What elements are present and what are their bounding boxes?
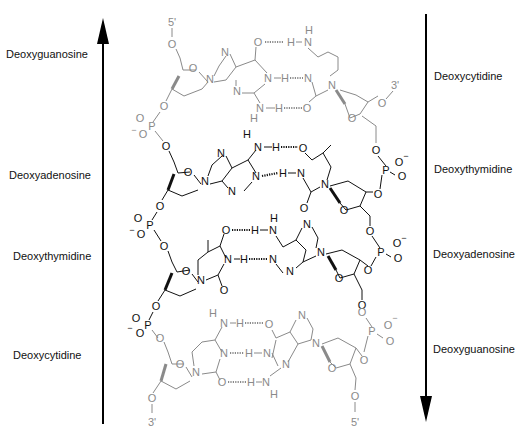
svg-text:O: O bbox=[148, 392, 157, 404]
dna-diagram: 5' O O O N N O N N N H H N H H bbox=[0, 0, 529, 436]
svg-text:N: N bbox=[328, 79, 336, 91]
svg-text:O: O bbox=[162, 140, 171, 152]
svg-text:N: N bbox=[282, 358, 290, 370]
phosphate-right-2: P O − O bbox=[371, 233, 407, 266]
svg-text:P: P bbox=[144, 319, 151, 331]
svg-text:H: H bbox=[305, 24, 313, 36]
svg-text:N: N bbox=[197, 274, 205, 286]
svg-text:O: O bbox=[182, 265, 191, 277]
svg-text:H: H bbox=[250, 112, 258, 124]
svg-text:P: P bbox=[146, 219, 153, 231]
svg-text:P: P bbox=[382, 164, 389, 176]
svg-text:O: O bbox=[176, 358, 185, 370]
svg-text:O: O bbox=[360, 354, 369, 366]
svg-text:N: N bbox=[221, 46, 229, 58]
svg-text:O: O bbox=[398, 170, 407, 182]
svg-text:N: N bbox=[304, 36, 312, 48]
svg-text:O: O bbox=[378, 97, 387, 109]
svg-text:O: O bbox=[340, 204, 349, 216]
svg-text:H: H bbox=[240, 253, 248, 265]
svg-text:O: O bbox=[160, 100, 169, 112]
svg-text:O: O bbox=[254, 36, 263, 48]
svg-text:N: N bbox=[297, 167, 305, 179]
svg-text:N: N bbox=[220, 317, 228, 329]
svg-text:O: O bbox=[184, 166, 193, 178]
svg-text:O: O bbox=[168, 38, 177, 50]
svg-text:O: O bbox=[299, 142, 308, 154]
svg-text:−: − bbox=[129, 225, 134, 235]
svg-text:O: O bbox=[335, 272, 344, 284]
svg-text:N: N bbox=[233, 85, 241, 97]
svg-text:O: O bbox=[189, 62, 198, 74]
svg-text:N: N bbox=[264, 72, 272, 84]
svg-text:O: O bbox=[132, 312, 141, 324]
svg-text:O: O bbox=[386, 335, 395, 347]
base-pair-t-a: O O O N O N O H N H H N N N bbox=[152, 212, 373, 312]
svg-text:N: N bbox=[298, 309, 306, 321]
svg-text:N: N bbox=[269, 224, 277, 236]
svg-text:H: H bbox=[279, 167, 287, 179]
svg-text:O: O bbox=[136, 327, 145, 339]
svg-text:O: O bbox=[394, 252, 403, 264]
svg-text:H: H bbox=[281, 72, 289, 84]
svg-text:−: − bbox=[127, 323, 132, 333]
svg-text:N: N bbox=[262, 376, 270, 388]
svg-text:H: H bbox=[245, 347, 253, 359]
phosphate-left-3: P O O − bbox=[127, 312, 153, 339]
svg-text:N: N bbox=[263, 347, 271, 359]
svg-text:O: O bbox=[152, 300, 161, 312]
svg-text:O: O bbox=[136, 112, 145, 124]
svg-text:O: O bbox=[384, 319, 393, 331]
phosphate-left-1: P O O − bbox=[131, 112, 163, 141]
svg-text:H: H bbox=[209, 307, 217, 319]
svg-text:H: H bbox=[247, 376, 255, 388]
phosphate-right-3: O P O − O bbox=[358, 306, 398, 352]
svg-text:−: − bbox=[401, 233, 406, 243]
svg-text:H: H bbox=[287, 36, 295, 48]
svg-text:H: H bbox=[270, 388, 278, 400]
svg-text:N: N bbox=[312, 337, 320, 349]
svg-text:O: O bbox=[218, 376, 227, 388]
svg-text:N: N bbox=[269, 253, 277, 265]
svg-text:P: P bbox=[148, 120, 155, 132]
svg-text:H: H bbox=[236, 317, 244, 329]
svg-text:N: N bbox=[317, 246, 325, 258]
left-strand-arrow bbox=[97, 18, 109, 424]
svg-text:N: N bbox=[286, 265, 294, 277]
svg-text:N: N bbox=[254, 141, 262, 153]
svg-text:O: O bbox=[303, 102, 312, 114]
svg-text:−: − bbox=[403, 151, 408, 161]
svg-text:O: O bbox=[372, 144, 381, 156]
svg-text:O: O bbox=[156, 200, 165, 212]
svg-text:O: O bbox=[358, 306, 367, 318]
svg-text:O: O bbox=[137, 228, 146, 240]
svg-text:O: O bbox=[348, 112, 357, 124]
svg-text:P: P bbox=[368, 325, 375, 337]
svg-text:−: − bbox=[392, 313, 397, 323]
svg-text:O: O bbox=[134, 212, 143, 224]
svg-text:N: N bbox=[224, 253, 232, 265]
svg-text:O: O bbox=[374, 188, 383, 200]
svg-text:O: O bbox=[366, 225, 375, 237]
svg-text:N: N bbox=[321, 178, 329, 190]
phosphate-left-2: P O O − bbox=[129, 212, 161, 241]
three-prime-top-right: 3' bbox=[391, 79, 399, 91]
svg-text:N: N bbox=[192, 366, 200, 378]
svg-text:O: O bbox=[265, 318, 274, 330]
three-prime-bottom-left: 3' bbox=[148, 416, 156, 428]
svg-text:N: N bbox=[304, 72, 312, 84]
svg-text:N: N bbox=[252, 170, 260, 182]
svg-text:N: N bbox=[228, 185, 236, 197]
svg-text:H: H bbox=[270, 212, 278, 224]
svg-text:O: O bbox=[393, 237, 402, 249]
svg-text:H: H bbox=[272, 141, 280, 153]
svg-text:O: O bbox=[395, 156, 404, 168]
five-prime-top-left: 5' bbox=[168, 16, 176, 28]
svg-text:H: H bbox=[251, 224, 259, 236]
svg-text:N: N bbox=[220, 347, 228, 359]
svg-text:O: O bbox=[351, 390, 360, 402]
base-pair-g-c: 5' O O O N N O N N N H H N H H bbox=[160, 16, 399, 143]
svg-text:N: N bbox=[303, 218, 311, 230]
svg-text:O: O bbox=[156, 332, 165, 344]
svg-text:O: O bbox=[139, 128, 148, 140]
